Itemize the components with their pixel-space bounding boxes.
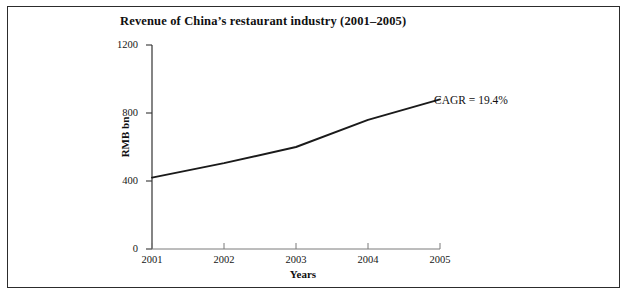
x-tick-label-2004: 2004 — [345, 254, 391, 265]
x-axis-label: Years — [273, 268, 333, 280]
cagr-annotation: CAGR = 19.4% — [434, 94, 508, 106]
y-tick-label-400: 400 — [104, 175, 138, 186]
x-tick-label-2002: 2002 — [201, 254, 247, 265]
x-tick-label-2003: 2003 — [273, 254, 319, 265]
y-tick-label-1200: 1200 — [104, 39, 138, 50]
x-tick-label-2005: 2005 — [417, 254, 463, 265]
chart-figure: Revenue of China’s restaurant industry (… — [0, 0, 629, 297]
x-tick-label-2001: 2001 — [129, 254, 175, 265]
plot-area — [0, 0, 629, 297]
y-tick-label-0: 0 — [104, 243, 138, 254]
revenue-line-series — [152, 99, 440, 177]
y-axis-label: RMB bn — [119, 107, 131, 167]
